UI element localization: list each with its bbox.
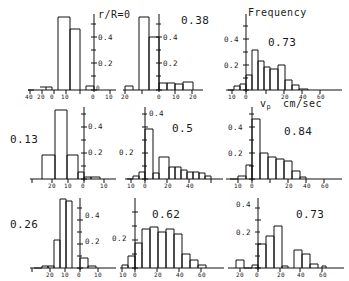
panel-r-0-38: 20 0 10 20 0.4 0.2 0.38: [123, 12, 211, 94]
ytick-label: 0.4: [85, 211, 100, 220]
panel-value-label: 0.73: [296, 208, 325, 221]
panel-r-0-73-top-bars: [228, 50, 308, 90]
ytick-label: 0: [96, 84, 100, 91]
frequency-axis-title: Frequency: [248, 7, 307, 18]
xtick-label: 40: [25, 93, 33, 100]
panel-r-0-bars: [28, 17, 94, 90]
xtick-label: 0: [133, 271, 137, 278]
xtick-label: 40: [186, 182, 194, 189]
ytick-label: 0.2: [85, 237, 100, 246]
panel-r-0: 40 20 0 10 0 10 0.4 0.2 0 r/R=0: [28, 12, 116, 94]
panel-r-0-26: 20 10 0 10 0.4 0.2 0.26: [28, 196, 116, 272]
panel-r-0-plot: [28, 12, 116, 94]
panel-value-label: 0.62: [152, 208, 181, 221]
panel-r-0-84-plot: [226, 105, 344, 183]
panel-r-0-13: 20 10 0 10 0.4 0.2 0.13: [28, 105, 116, 183]
panel-value-label: 0.38: [181, 14, 210, 27]
xtick-label: 0: [143, 182, 147, 189]
ytick-label: 0.4: [98, 33, 113, 42]
panel-r-0-axes: [28, 14, 116, 94]
xtick-label: 20: [285, 182, 293, 189]
ytick-label: 0.2: [163, 59, 178, 68]
xtick-label: 10: [94, 271, 102, 278]
ytick-label: 0.2: [88, 148, 103, 157]
ytick-label: 0.4: [236, 200, 251, 209]
panel-r-0-5-bars: [127, 129, 211, 179]
panel-r-0-73-top-axes: [226, 14, 342, 94]
xtick-label: 0: [50, 93, 54, 100]
xtick-label: 10: [234, 182, 242, 189]
histogram-figure: 40 20 0 10 0 10 0.4 0.2 0 r/R=0: [0, 0, 349, 281]
panel-r-0-73-top-plot: [226, 12, 344, 94]
xtick-label: 0: [157, 93, 161, 100]
xtick-label: 0: [91, 93, 95, 100]
ytick-label: 0.4: [149, 109, 164, 118]
panel-r-0-26-plot: [28, 196, 116, 272]
panel-r-0-73-top: 10 0 20 40 60 0.4 0.2 Frequency 0.73: [226, 12, 344, 94]
panel-value-label: 0.73: [268, 36, 297, 49]
ytick-label: 0.4: [224, 35, 239, 44]
xtick-label: 20: [164, 182, 172, 189]
panel-r-0-13-axes: [30, 107, 116, 183]
panel-r-0-62: 10 0 20 40 60 0.2 0.62: [120, 196, 224, 272]
xtick-label: 60: [319, 271, 327, 278]
xtick-label: 20: [37, 93, 45, 100]
xtick-label: 10: [127, 182, 135, 189]
panel-r-0-13-plot: [28, 105, 116, 183]
velocity-axis-units: cm/sec: [283, 98, 322, 109]
panel-r-0-5-plot: [125, 105, 223, 183]
xtick-label: 40: [176, 271, 184, 278]
xtick-label: 0: [255, 271, 259, 278]
ytick-label: 0.4: [228, 123, 243, 132]
xtick-label: 20: [277, 271, 285, 278]
ytick-label: 0.2: [228, 149, 243, 158]
panel-r-0-26-axes: [30, 198, 116, 272]
panel-r-0-26-bars: [34, 199, 96, 268]
xtick-label: 10: [64, 182, 72, 189]
xtick-label: 10: [61, 271, 69, 278]
ytick-label: 0.4: [88, 122, 103, 131]
panel-value-label: 0.13: [10, 133, 39, 146]
ytick-label: 0.2: [224, 61, 239, 70]
xtick-label: 20: [236, 271, 244, 278]
xtick-label: 0: [81, 182, 85, 189]
xtick-label: 20: [48, 182, 56, 189]
xtick-label: 10: [119, 271, 127, 278]
xtick-label: 10: [61, 93, 69, 100]
panel-value-label: 0.5: [172, 122, 193, 135]
xtick-label: 10: [172, 93, 180, 100]
ytick-label: 0.2: [98, 59, 113, 68]
ytick-label: 0.2: [112, 234, 127, 243]
panel-r-0-84: 10 0 20 40 60 0.4 0.2 vp cm/sec 0.84: [226, 105, 344, 183]
xtick-label: 20: [121, 93, 129, 100]
xtick-label: 10: [228, 93, 236, 100]
xtick-label: 60: [198, 271, 206, 278]
velocity-axis-symbol: vp: [260, 98, 271, 111]
panel-value-label: 0.84: [284, 125, 313, 138]
xtick-label: 0: [77, 271, 81, 278]
xtick-label: 20: [154, 271, 162, 278]
xtick-label: 40: [297, 271, 305, 278]
panel-r-0-73-bottom: 20 0 20 40 60 0.4 0.2 0.73: [228, 196, 344, 272]
xtick-label: 20: [189, 93, 197, 100]
panel-value-label: 0.26: [10, 218, 39, 231]
xtick-label: 40: [303, 182, 311, 189]
panel-r-0-5: 10 0 20 40 0.4 0.2 0.5: [125, 105, 223, 183]
ytick-label: 0.2: [236, 228, 251, 237]
xtick-label: 10: [100, 182, 108, 189]
ytick-label: 0.4: [163, 33, 178, 42]
xtick-label: 10: [105, 93, 113, 100]
ytick-label: 0.2: [119, 148, 134, 157]
xtick-label: 0: [244, 93, 248, 100]
velocity-axis-subscript: p: [267, 103, 272, 111]
xtick-label: 60: [321, 182, 329, 189]
panel-r-0-13-bars: [42, 110, 100, 179]
xtick-label: 0: [250, 182, 254, 189]
xtick-label: 20: [46, 271, 54, 278]
